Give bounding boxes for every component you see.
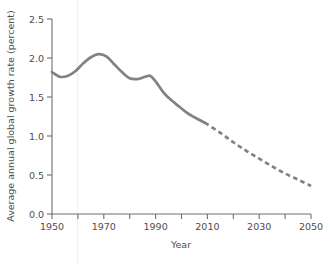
series-line-historical — [52, 54, 205, 123]
series-line-projected — [205, 123, 311, 186]
x-tick-label: 2030 — [247, 221, 271, 232]
x-tick-label: 1990 — [144, 221, 168, 232]
x-axis-tick-labels: 1950 1970 1990 2010 2030 2050 — [40, 221, 323, 232]
y-tick-label: 2.5 — [29, 14, 44, 25]
y-tick-label: 2.0 — [29, 53, 44, 64]
x-axis-title: Year — [170, 239, 191, 250]
y-axis-tick-labels: 0.0 0.5 1.0 1.5 2.0 2.5 — [29, 14, 44, 220]
y-tick-label: 1.5 — [29, 92, 44, 103]
y-tick-label: 0.0 — [29, 209, 44, 220]
y-axis-title: Average annual global growth rate (perce… — [5, 10, 16, 222]
chart-figure: 0.0 0.5 1.0 1.5 2.0 2.5 1950 1970 1990 — [0, 0, 330, 264]
line-chart-plot: 0.0 0.5 1.0 1.5 2.0 2.5 1950 1970 1990 — [0, 0, 330, 264]
y-tick-label: 0.5 — [29, 170, 44, 181]
x-axis-ticks — [52, 214, 311, 219]
x-tick-label: 2010 — [195, 221, 219, 232]
y-axis-ticks — [47, 19, 52, 214]
y-tick-label: 1.0 — [29, 131, 44, 142]
x-tick-label: 1970 — [92, 221, 116, 232]
x-tick-label: 1950 — [40, 221, 64, 232]
x-tick-label: 2050 — [299, 221, 323, 232]
